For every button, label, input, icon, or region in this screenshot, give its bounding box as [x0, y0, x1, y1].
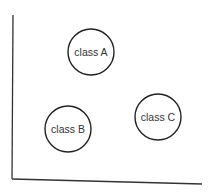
cluster-label: class C — [141, 111, 176, 123]
cluster-label: class B — [51, 123, 85, 135]
cluster-label: class A — [74, 46, 107, 58]
x-axis — [12, 179, 202, 184]
cluster-class-a: class A — [68, 29, 114, 75]
cluster-class-c: class C — [135, 94, 181, 140]
cluster-diagram: class A class B class C — [0, 0, 211, 194]
y-axis — [12, 15, 13, 179]
cluster-class-b: class B — [45, 106, 91, 152]
